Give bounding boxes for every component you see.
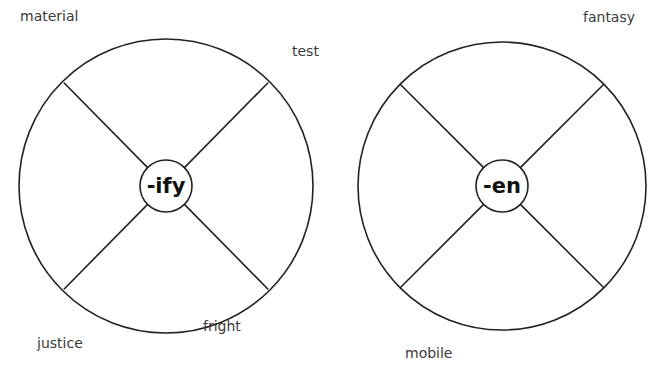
spoke <box>520 84 603 167</box>
word-label: test <box>292 43 319 59</box>
word-label: mobile <box>405 345 452 361</box>
word-label: material <box>20 8 78 24</box>
suffix-label: -en <box>483 174 521 198</box>
spoke <box>520 204 603 287</box>
spoke <box>400 204 483 287</box>
wheel-diagram: -ify -en <box>0 0 656 371</box>
spoke <box>184 83 268 168</box>
word-label: fright <box>203 318 241 334</box>
spoke <box>400 84 483 167</box>
word-label: justice <box>37 335 83 351</box>
spoke <box>64 83 148 168</box>
spoke <box>64 204 148 289</box>
word-label: fantasy <box>583 9 635 25</box>
suffix-label: -ify <box>147 174 186 198</box>
spoke <box>184 204 268 289</box>
